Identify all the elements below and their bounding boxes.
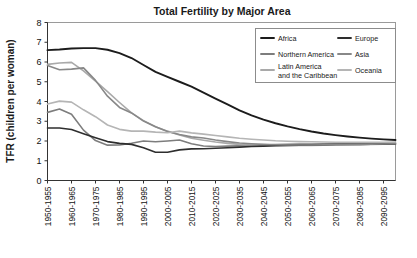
x-tick-label: 2010-2015 — [187, 186, 197, 226]
legend-label: Oceania — [355, 66, 382, 75]
x-tick-label: 1950-1955 — [43, 186, 53, 226]
y-tick-label: 6 — [36, 57, 41, 67]
x-tick-label: 1960-1965 — [67, 186, 77, 226]
x-tick-label: 2090-2095 — [379, 186, 389, 226]
legend-label: Northern America — [278, 50, 334, 59]
x-tick-label: 2030-2035 — [235, 186, 245, 226]
x-tick-label: 2060-2065 — [307, 186, 317, 226]
y-tick-label: 1 — [36, 156, 41, 166]
y-tick-label: 2 — [36, 136, 41, 146]
chart-title: Total Fertility by Major Area — [153, 5, 290, 17]
x-tick-label: 1980-1985 — [115, 186, 125, 226]
x-tick-label: 1970-1975 — [91, 186, 101, 226]
x-tick-label: 2080-2085 — [355, 186, 365, 226]
fertility-line-chart: Total Fertility by Major Area TFR (child… — [0, 0, 417, 258]
legend-label: Asia — [355, 50, 369, 59]
y-tick-label: 5 — [36, 77, 41, 87]
y-tick-label: 8 — [36, 18, 41, 28]
legend-label: Africa — [278, 34, 296, 43]
y-tick-label: 7 — [36, 37, 41, 47]
chart-container: Total Fertility by Major Area TFR (child… — [0, 0, 417, 258]
x-tick-label: 1990-1995 — [139, 186, 149, 226]
y-tick-label: 0 — [36, 176, 41, 186]
y-tick-label: 4 — [36, 97, 41, 107]
x-tick-label: 2040-2045 — [259, 186, 269, 226]
x-tick-label: 2000-2005 — [163, 186, 173, 226]
y-axis-label: TFR (children per woman) — [5, 39, 16, 162]
chart-legend: AfricaNorthern AmericaLatin Americaand t… — [256, 29, 396, 83]
x-tick-label: 2020-2025 — [211, 186, 221, 226]
legend-label-line2: and the Caribbean — [278, 71, 337, 80]
x-axis-ticks: 1950-19551960-19651970-19751980-19851990… — [43, 181, 389, 227]
legend-label: Europe — [355, 34, 378, 43]
x-tick-label: 2070-2075 — [331, 186, 341, 226]
x-tick-label: 2050-2055 — [283, 186, 293, 226]
y-tick-label: 3 — [36, 116, 41, 126]
